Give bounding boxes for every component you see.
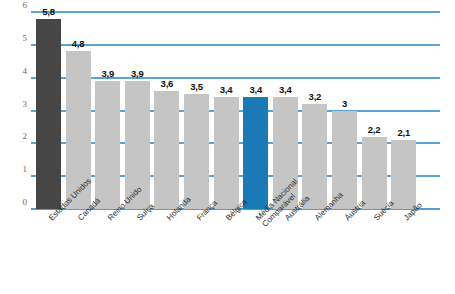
bars-layer: 5,84,83,93,93,63,53,43,43,43,232,22,1 Es… <box>0 0 455 294</box>
bar-4 <box>154 91 179 209</box>
bar-6 <box>214 97 239 209</box>
bar-5 <box>184 94 209 209</box>
bar-7 <box>243 97 268 209</box>
bar-value-label-10: 3 <box>325 99 365 109</box>
bar-chart: 0123456 5,84,83,93,93,63,53,43,43,43,232… <box>0 0 455 294</box>
bar-12 <box>391 140 416 209</box>
bar-value-label-0: 5,8 <box>29 7 69 17</box>
bar-2 <box>95 81 120 209</box>
bar-value-label-3: 3,9 <box>117 69 157 79</box>
bar-value-label-1: 4,8 <box>58 39 98 49</box>
bar-value-label-12: 2,1 <box>384 128 424 138</box>
bar-11 <box>362 137 387 209</box>
